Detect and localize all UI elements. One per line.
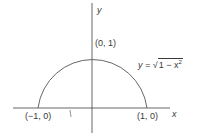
equation-exponent: 2 xyxy=(178,59,181,65)
point-label-right: (1, 0) xyxy=(137,112,158,121)
x-axis-label: x xyxy=(172,110,177,119)
equation-lhs: y = xyxy=(138,60,153,70)
tick-mark xyxy=(70,110,71,117)
point-label-top: (0, 1) xyxy=(95,39,116,48)
y-axis-label: y xyxy=(97,6,102,15)
point-label-left: (−1, 0) xyxy=(25,112,51,121)
semicircle-curve xyxy=(38,60,147,108)
equation-radicand-wrap: 1 − x2 xyxy=(158,58,183,70)
function-equation: y = √1 − x2 xyxy=(138,58,183,70)
equation-radicand: 1 − x xyxy=(159,60,179,70)
